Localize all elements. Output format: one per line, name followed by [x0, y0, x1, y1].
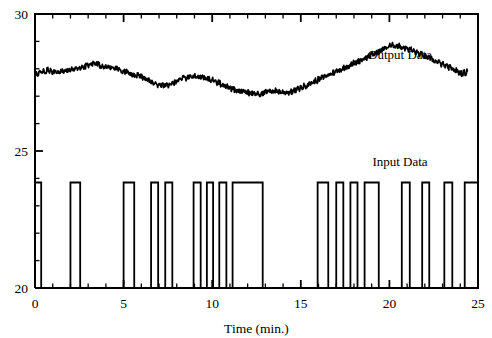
- output-data-label: Output Data: [368, 47, 432, 62]
- x-axis-title: Time (min.): [224, 321, 289, 336]
- x-tick-label-10: 10: [205, 296, 219, 311]
- x-tick-label-20: 20: [383, 296, 397, 311]
- y-tick-label-30: 30: [15, 7, 29, 22]
- input-data-label: Input Data: [372, 154, 427, 169]
- x-tick-label-25: 25: [471, 296, 485, 311]
- x-tick-label-15: 15: [294, 296, 308, 311]
- y-tick-label-25: 25: [15, 144, 29, 159]
- x-tick-label-5: 5: [120, 296, 127, 311]
- x-tick-label-0: 0: [32, 296, 39, 311]
- chart-figure: 0510152025 202530 Output Data Input Data…: [0, 0, 492, 338]
- chart-root: 0510152025 202530 Output Data Input Data…: [0, 0, 492, 338]
- y-tick-label-20: 20: [15, 281, 29, 296]
